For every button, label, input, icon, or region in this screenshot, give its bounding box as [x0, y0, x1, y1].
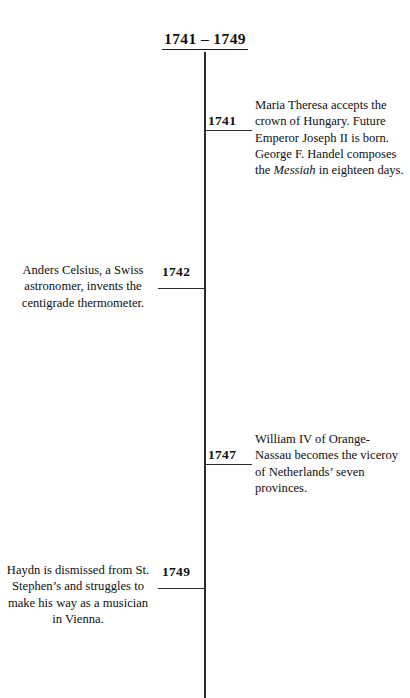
year-label-1747: 1747: [208, 447, 236, 462]
year-label-1742: 1742: [162, 264, 190, 279]
entry-description-1747: William IV of Orange-Nassau becomes the …: [255, 431, 405, 496]
timeline-title-text: 1741 – 1749: [162, 30, 248, 50]
tick-mark-1741: [205, 130, 252, 131]
tick-mark-1747: [205, 464, 252, 465]
tick-mark-1749: [158, 588, 205, 589]
tick-mark-1742: [158, 288, 205, 289]
entry-description-1742: Anders Celsius, a Swiss astronomer, inve…: [12, 262, 154, 311]
entry-description-1749: Haydn is dismissed from St. Stephen’s an…: [2, 562, 154, 627]
timeline-axis: [204, 52, 206, 698]
year-label-1749: 1749: [162, 564, 190, 579]
entry-text-part-2: in eighteen days.: [316, 163, 404, 177]
year-label-1741: 1741: [208, 113, 236, 128]
entry-description-1741: Maria Theresa accepts the crown of Hunga…: [255, 97, 405, 178]
entry-text-italic: Messiah: [274, 163, 316, 177]
timeline-title: 1741 – 1749: [0, 30, 410, 50]
